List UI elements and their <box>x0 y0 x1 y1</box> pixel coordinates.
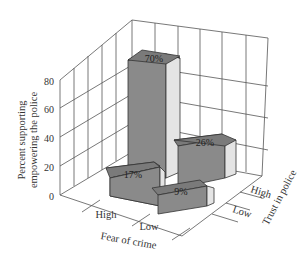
x-axis-title: Fear of crime <box>100 230 158 251</box>
x-tick-high: High <box>96 209 118 220</box>
x-axis: High Low Fear of crime <box>96 209 160 251</box>
y-axis-title-line2: empowering the police <box>28 92 39 189</box>
z-axis: High Low Trust in police <box>231 168 298 227</box>
y-tick: 20 <box>44 162 54 173</box>
z-tick-low: Low <box>231 203 253 220</box>
y-tick: 80 <box>44 76 54 87</box>
3d-bar-chart: 70% 26% 17% 9% 0 20 <box>0 0 304 261</box>
bar-label: 70% <box>145 53 163 64</box>
bar-label: 17% <box>124 169 142 180</box>
y-axis-title-line1: Percent supporting <box>16 100 27 180</box>
bar-high-fear-low-trust: 17% <box>106 162 165 206</box>
y-tick: 60 <box>44 104 54 115</box>
y-tick: 40 <box>44 133 54 144</box>
y-tick: 0 <box>49 191 54 202</box>
bar-label: 26% <box>196 137 214 148</box>
bar-label: 9% <box>174 186 187 197</box>
x-tick-low: Low <box>139 221 159 232</box>
y-axis: 0 20 40 60 80 Percent supporting empower… <box>16 76 54 202</box>
bar-low-fear-high-trust: 26% <box>174 134 236 188</box>
